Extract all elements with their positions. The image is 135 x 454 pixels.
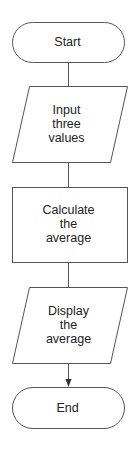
end-label: End bbox=[0, 401, 135, 415]
display-label: Display the average bbox=[1, 304, 135, 346]
input-label: Input three values bbox=[0, 103, 134, 145]
calculate-label: Calculate the average bbox=[1, 203, 135, 245]
arrow-down-icon bbox=[66, 379, 72, 387]
start-label: Start bbox=[0, 35, 135, 49]
